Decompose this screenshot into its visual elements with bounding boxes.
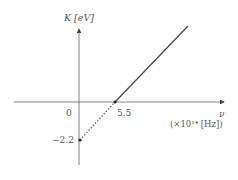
x-intercept-label: 5.5 bbox=[117, 108, 132, 118]
photoelectric-chart: K [eV] 0 5.5 −2.2 ν (×10¹⁴ [Hz]) bbox=[0, 0, 238, 180]
x-unit-label: (×10¹⁴ [Hz]) bbox=[170, 119, 223, 129]
x-axis-label: ν bbox=[219, 109, 225, 119]
y-intercept-label: −2.2 bbox=[52, 135, 74, 145]
data-line-solid bbox=[115, 26, 188, 102]
y-intercept-point bbox=[78, 138, 81, 141]
y-axis-label: K [eV] bbox=[63, 12, 94, 23]
x-intercept-point bbox=[113, 100, 116, 103]
data-line-dotted bbox=[80, 102, 115, 140]
origin-label: 0 bbox=[66, 108, 72, 118]
